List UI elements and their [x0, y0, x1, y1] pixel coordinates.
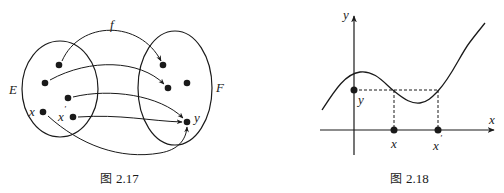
dot-e-2	[42, 80, 49, 87]
dot-f-y	[184, 119, 191, 126]
set-f-ellipse	[138, 31, 212, 145]
figures-canvas: f E F x x ′ y 图 2.17 y x	[0, 0, 504, 193]
y-axis-label: y	[341, 7, 349, 22]
point-y	[351, 87, 358, 94]
dot-f-2	[165, 85, 172, 92]
arrow-2	[50, 65, 164, 84]
map-label-f: f	[110, 17, 116, 32]
set-label-f: F	[215, 80, 225, 95]
function-curve	[322, 23, 485, 110]
label-x-prime: x	[57, 109, 64, 124]
dot-f-3	[184, 80, 191, 87]
dot-e-3	[65, 95, 72, 102]
point-x	[391, 127, 398, 134]
caption-prefix: 图	[390, 172, 402, 186]
dot-e-x	[40, 109, 47, 116]
arrow-4	[78, 116, 182, 122]
arrow-3	[73, 93, 183, 118]
label-x-prime-mark: ′	[440, 133, 443, 143]
caption-number: 2.18	[406, 171, 429, 186]
label-x-prime-mark: ′	[64, 104, 67, 114]
x-axis-label: x	[488, 112, 495, 127]
caption-number: 2.17	[116, 171, 139, 186]
caption-prefix: 图	[100, 172, 112, 186]
dot-e-x-prime	[70, 114, 77, 121]
figure-2-18: y x y x x ′ 图 2.18	[320, 7, 495, 186]
figure-2-17: f E F x x ′ y 图 2.17	[8, 17, 225, 186]
label-y: y	[356, 92, 364, 107]
dot-e-1	[56, 62, 63, 69]
label-x: x	[390, 136, 397, 151]
dot-f-1	[160, 62, 167, 69]
label-y: y	[192, 110, 200, 125]
label-x: x	[28, 104, 35, 119]
label-x-prime: x	[432, 138, 439, 153]
set-label-e: E	[8, 82, 17, 97]
